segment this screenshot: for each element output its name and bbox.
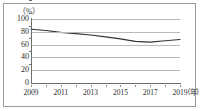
x-tick-mark xyxy=(106,85,107,87)
y-tick-label: 0 xyxy=(5,79,29,87)
x-tick-label: 2013 xyxy=(83,89,98,97)
y-tick-label: 20 xyxy=(5,66,29,74)
y-tick-label: 40 xyxy=(5,53,29,61)
x-tick-mark xyxy=(135,85,136,87)
x-tick-mark xyxy=(120,85,121,87)
x-axis-tick-labels: （年） 200920112013201520172019 xyxy=(31,85,181,105)
x-tick-mark xyxy=(180,85,181,87)
x-tick-mark xyxy=(31,85,32,87)
y-tick-mark xyxy=(29,0,32,1)
x-axis-line xyxy=(31,83,181,84)
y-tick-label: 80 xyxy=(5,28,29,36)
x-tick-label: 2011 xyxy=(53,89,68,97)
y-tick-mark xyxy=(29,64,32,65)
gridline xyxy=(31,32,180,33)
x-tick-mark xyxy=(61,85,62,87)
y-tick-label: 60 xyxy=(5,41,29,49)
x-tick-mark xyxy=(165,85,166,87)
y-tick-mark xyxy=(29,51,32,52)
x-tick-label: 2019 xyxy=(173,89,188,97)
y-tick-mark xyxy=(29,38,32,39)
gridline xyxy=(31,70,180,71)
y-tick-mark xyxy=(29,26,32,27)
gridline xyxy=(31,19,180,20)
y-tick-mark xyxy=(29,13,32,14)
line-series-svg xyxy=(31,19,180,83)
x-tick-mark xyxy=(46,85,47,87)
y-tick-label: 100 xyxy=(5,15,29,23)
x-tick-label: 2009 xyxy=(24,89,39,97)
x-tick-mark xyxy=(91,85,92,87)
plot-area xyxy=(31,19,180,83)
gridline xyxy=(31,57,180,58)
x-tick-label: 2017 xyxy=(143,89,158,97)
gridline xyxy=(31,45,180,46)
x-tick-mark xyxy=(76,85,77,87)
x-tick-mark xyxy=(150,85,151,87)
x-tick-label: 2015 xyxy=(113,89,128,97)
chart-figure: （%） 100806040200 （年） 2009201120132015201… xyxy=(0,0,200,111)
